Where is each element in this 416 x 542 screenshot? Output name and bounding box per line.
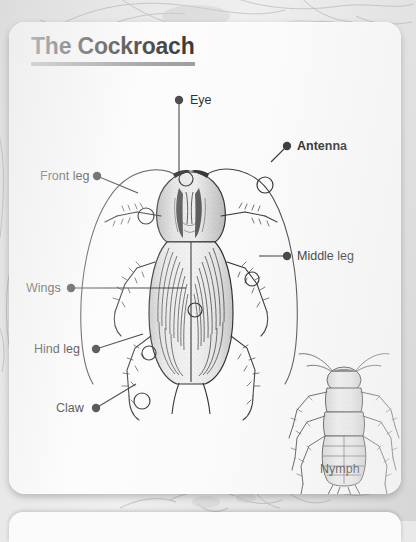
label-wings: Wings bbox=[26, 281, 61, 295]
label-dot-hind-leg bbox=[92, 345, 100, 353]
label-dot-wings bbox=[67, 284, 75, 292]
label-dot-claw bbox=[92, 404, 100, 412]
label-claw: Claw bbox=[56, 401, 84, 415]
label-dot-antenna bbox=[283, 142, 291, 150]
leader-front-leg bbox=[97, 176, 138, 193]
label-front-leg: Front leg bbox=[40, 169, 89, 183]
content-card: The Cockroach bbox=[9, 22, 401, 494]
label-dot-eye bbox=[175, 96, 183, 104]
label-middle-leg: Middle leg bbox=[297, 249, 354, 263]
label-dot-middle-leg bbox=[283, 252, 291, 260]
caption-nymph: Nymph bbox=[320, 462, 360, 476]
callout-circle-antenna bbox=[257, 177, 273, 193]
label-hind-leg: Hind leg bbox=[34, 342, 80, 356]
main-cockroach-illustration bbox=[81, 169, 298, 420]
callout-circle-claw bbox=[134, 393, 150, 409]
label-dot-front-leg bbox=[93, 172, 101, 180]
label-antenna: Antenna bbox=[297, 139, 347, 153]
next-card-edge bbox=[9, 512, 401, 542]
label-eye: Eye bbox=[190, 93, 212, 107]
callout-circle-front-leg bbox=[138, 208, 154, 224]
